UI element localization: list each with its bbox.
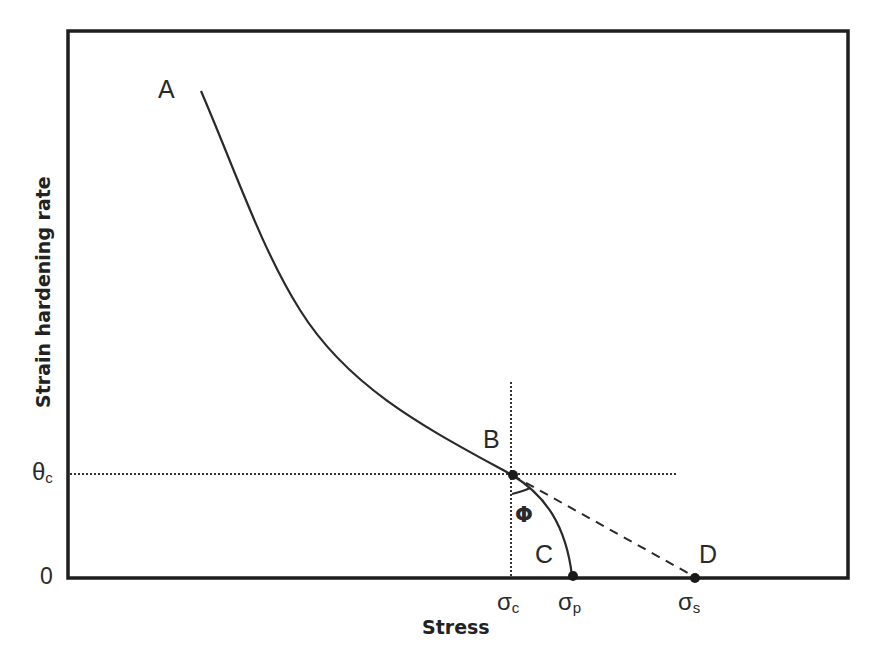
y-tick-theta-symbol: θ (32, 458, 45, 485)
point-d-marker (690, 573, 700, 583)
x-tick-sigma-c: σc (497, 590, 519, 615)
x-axis-title: Stress (422, 618, 490, 637)
y-tick-theta-c: θc (32, 460, 53, 485)
x-tick-sigma-s: σs (678, 590, 700, 615)
point-sigma-p-marker (568, 571, 578, 581)
point-b-label: B (483, 427, 500, 452)
point-c-label: C (535, 542, 553, 567)
x-tick-sigma-p-subscript: p (573, 599, 581, 616)
x-tick-sigma-s-symbol: σ (678, 588, 693, 615)
phi-angle-label: Φ (515, 505, 533, 526)
point-a-label: A (158, 77, 175, 102)
plot-frame (68, 31, 848, 578)
point-b-marker (508, 470, 518, 480)
x-tick-sigma-c-symbol: σ (497, 588, 512, 615)
strain-hardening-diagram: A B C D Φ 0 θc σc σp σs Stress Strain ha… (0, 0, 878, 657)
y-tick-zero: 0 (40, 565, 53, 588)
x-tick-sigma-c-subscript: c (512, 599, 520, 616)
phi-angle-arc (512, 488, 530, 494)
x-tick-sigma-p-symbol: σ (558, 588, 573, 615)
y-axis-title: Strain hardening rate (34, 176, 53, 408)
x-tick-sigma-p: σp (558, 590, 581, 615)
x-tick-sigma-s-subscript: s (693, 599, 701, 616)
hardening-curve-a-b (201, 91, 512, 475)
point-d-label: D (699, 542, 717, 567)
y-tick-theta-subscript: c (45, 469, 53, 486)
plot-canvas (0, 0, 878, 657)
